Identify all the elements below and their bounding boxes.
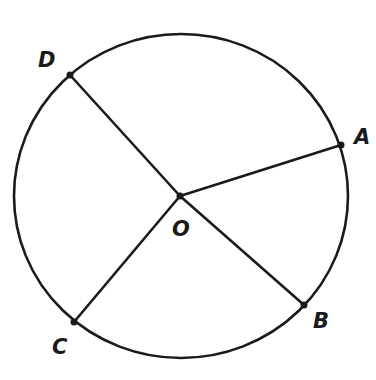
label-d: D <box>38 48 55 72</box>
radius-od <box>70 75 180 196</box>
point-b <box>301 302 308 309</box>
radii-group <box>70 75 341 322</box>
label-a: A <box>352 125 370 149</box>
label-b: B <box>313 309 329 333</box>
label-c: C <box>52 335 68 359</box>
center-point-o <box>177 193 184 200</box>
label-o: O <box>172 217 190 241</box>
point-c <box>71 319 78 326</box>
radius-oa <box>180 145 341 196</box>
point-d <box>67 72 74 79</box>
radius-oc <box>74 196 180 322</box>
circle-diagram: O D A B C <box>0 0 376 380</box>
point-a <box>338 142 345 149</box>
radius-ob <box>180 196 304 305</box>
